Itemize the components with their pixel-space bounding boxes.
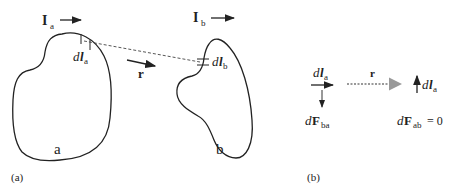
svg-text:d: d: [212, 54, 219, 69]
svg-text:d: d: [422, 77, 429, 92]
svg-text:d: d: [73, 49, 80, 64]
svg-text:= 0: = 0: [427, 114, 443, 128]
element-b-label: d l b: [212, 54, 228, 71]
svg-text:d: d: [305, 113, 312, 128]
force-ab-label: d F ab = 0: [397, 113, 443, 130]
svg-text:a: a: [324, 72, 328, 82]
loop-b-label: b: [216, 141, 224, 157]
svg-text:b: b: [223, 61, 228, 71]
panel-b-caption: (b): [307, 171, 320, 184]
svg-text:d: d: [397, 113, 404, 128]
panel-b-element-left-label: d l a: [313, 65, 328, 82]
diagram-canvas: I a I b d l a r d l b a b (a) d l a: [0, 0, 451, 191]
panel-b-separation-label: r: [370, 67, 375, 79]
svg-text:F: F: [404, 113, 412, 128]
svg-text:a: a: [50, 21, 54, 31]
svg-text:I: I: [193, 10, 198, 25]
current-b-label: I b: [193, 10, 206, 28]
panel-a-caption: (a): [11, 171, 24, 184]
svg-text:ba: ba: [321, 120, 330, 130]
current-a-label: I a: [42, 13, 54, 31]
svg-text:ab: ab: [413, 120, 422, 130]
loop-a: [13, 33, 111, 161]
svg-text:a: a: [433, 84, 437, 94]
element-a-label: d l a: [73, 49, 88, 66]
svg-text:a: a: [84, 56, 88, 66]
loop-a-label: a: [54, 141, 61, 157]
svg-text:d: d: [313, 65, 320, 80]
panel-b-element-right-label: d l a: [422, 77, 437, 94]
svg-text:I: I: [42, 13, 47, 28]
separation-vector-label: r: [138, 66, 144, 81]
svg-text:F: F: [312, 113, 320, 128]
svg-text:b: b: [201, 18, 206, 28]
force-ba-label: d F ba: [305, 113, 330, 130]
